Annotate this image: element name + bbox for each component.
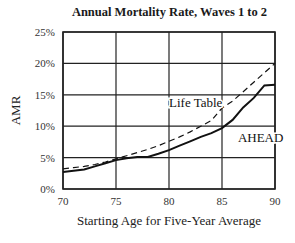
y-tick-label: 0% [40,183,55,195]
life-table-label: Life Table [169,95,223,110]
y-tick-label: 15% [35,89,55,101]
y-axis-label: AMR [8,95,23,125]
y-tick-label: 10% [35,120,55,132]
x-tick-label: 90 [270,195,282,207]
line-chart: 0%5%10%15%20%25%7075808590Life TableAHEA… [0,0,295,243]
x-tick-label: 70 [58,195,70,207]
y-tick-label: 5% [40,152,55,164]
y-tick-label: 25% [35,26,55,38]
x-tick-label: 80 [164,195,176,207]
ahead-label: AHEAD [238,130,284,145]
x-axis-label: Starting Age for Five-Year Average [77,213,261,228]
x-tick-label: 75 [111,195,123,207]
x-tick-label: 85 [217,195,229,207]
y-tick-label: 20% [35,57,55,69]
